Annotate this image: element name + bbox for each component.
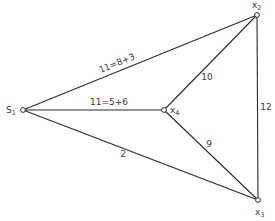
- node-label-x4: x4: [170, 105, 179, 117]
- edge-s1-x3: [23, 110, 258, 200]
- network-diagram: 11=8+3 11=5+6 2 10 9 12 S1 x4 x2 x3: [0, 0, 275, 221]
- node-label-x3: x3: [255, 207, 264, 219]
- edge-label-s1-x4: 11=5+6: [90, 97, 128, 107]
- edge-x2-x3: [257, 15, 258, 200]
- edge-label-x2-x3: 12: [260, 102, 271, 112]
- diagram-svg: 11=8+3 11=5+6 2 10 9 12 S1 x4 x2 x3: [0, 0, 275, 221]
- edge-label-x4-x2: 10: [201, 72, 213, 82]
- edge-label-x4-x3: 9: [206, 139, 212, 149]
- edge-x4-x2: [164, 15, 257, 110]
- node-s1: [21, 108, 26, 113]
- node-label-x2: x2: [252, 0, 261, 12]
- node-x4: [162, 108, 167, 113]
- node-x2: [255, 13, 260, 18]
- node-x3: [256, 198, 261, 203]
- edge-s1-x2: [23, 15, 257, 110]
- edge-x4-x3: [164, 110, 258, 200]
- edge-label-s1-x3: 2: [120, 149, 126, 159]
- node-label-s1: S1: [6, 105, 16, 117]
